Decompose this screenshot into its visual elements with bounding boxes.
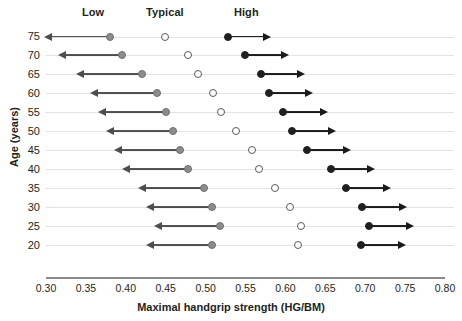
typical-data-point	[194, 70, 202, 78]
x-tick-label: 0.50	[195, 282, 215, 294]
x-tick-label: 0.40	[116, 282, 136, 294]
chart-row	[0, 179, 462, 198]
high-data-point	[288, 127, 296, 135]
high-data-point	[365, 222, 373, 230]
typical-data-point	[271, 184, 279, 192]
high-arrow-head-icon	[281, 51, 289, 59]
low-arrow-shaft	[153, 206, 212, 208]
high-data-point	[224, 33, 232, 41]
high-data-point	[257, 70, 265, 78]
high-arrow-shaft	[228, 36, 265, 38]
typical-data-point	[161, 33, 169, 41]
high-arrow-shaft	[245, 54, 283, 56]
y-tick-label: 40	[28, 163, 40, 175]
y-tick-label: 20	[28, 239, 40, 251]
high-arrow-head-icon	[320, 108, 328, 116]
chart-row	[0, 46, 462, 65]
chart-root: LowTypicalHigh Age (years) 7570656055504…	[0, 0, 462, 321]
y-tick-label: 35	[28, 182, 40, 194]
chart-row	[0, 235, 462, 254]
x-tick-label: 0.75	[395, 282, 415, 294]
x-tick-label: 0.45	[155, 282, 175, 294]
low-data-point	[162, 108, 170, 116]
group-header-high: High	[234, 6, 259, 18]
low-arrow-head-icon	[146, 241, 154, 249]
chart-row	[0, 122, 462, 141]
typical-data-point	[294, 241, 302, 249]
high-data-point	[279, 108, 287, 116]
high-arrow-shaft	[283, 111, 321, 113]
low-arrow-head-icon	[76, 70, 84, 78]
low-arrow-shaft	[83, 73, 142, 75]
low-arrow-head-icon	[154, 222, 162, 230]
y-tick-label: 50	[28, 125, 40, 137]
typical-data-point	[217, 108, 225, 116]
group-header-low: Low	[82, 6, 104, 18]
low-arrow-head-icon	[138, 184, 146, 192]
chart-row	[0, 160, 462, 179]
low-data-point	[216, 222, 224, 230]
high-data-point	[241, 51, 249, 59]
gridline	[46, 188, 454, 189]
x-tick-label: 0.55	[235, 282, 255, 294]
high-arrow-head-icon	[399, 203, 407, 211]
y-tick-label: 70	[28, 49, 40, 61]
group-header-typical: Typical	[146, 6, 184, 18]
typical-data-point	[209, 89, 217, 97]
y-tick-label: 25	[28, 220, 40, 232]
typical-data-point	[232, 127, 240, 135]
high-arrow-shaft	[331, 168, 369, 170]
high-arrow-head-icon	[406, 222, 414, 230]
chart-row	[0, 84, 462, 103]
low-arrow-head-icon	[44, 33, 52, 41]
high-data-point	[358, 203, 366, 211]
high-data-point	[265, 89, 273, 97]
high-data-point	[303, 146, 311, 154]
chart-row	[0, 198, 462, 217]
high-arrow-shaft	[369, 225, 407, 227]
high-arrow-shaft	[292, 130, 330, 132]
typical-data-point	[248, 146, 256, 154]
typical-data-point	[184, 51, 192, 59]
high-arrow-head-icon	[328, 127, 336, 135]
high-arrow-head-icon	[383, 184, 391, 192]
low-data-point	[200, 184, 208, 192]
low-arrow-head-icon	[58, 51, 66, 59]
low-arrow-head-icon	[90, 89, 98, 97]
low-arrow-shaft	[97, 92, 157, 94]
high-arrow-shaft	[361, 244, 399, 246]
x-tick-label: 0.60	[275, 282, 295, 294]
chart-row	[0, 27, 462, 46]
high-arrow-head-icon	[263, 33, 271, 41]
x-tick-label: 0.65	[315, 282, 335, 294]
low-arrow-shaft	[153, 244, 212, 246]
high-arrow-shaft	[362, 206, 400, 208]
high-data-point	[327, 165, 335, 173]
high-arrow-head-icon	[305, 89, 313, 97]
high-data-point	[342, 184, 350, 192]
high-arrow-shaft	[269, 92, 307, 94]
x-axis-title: Maximal handgrip strength (HG/BM)	[0, 301, 462, 313]
typical-data-point	[255, 165, 263, 173]
y-tick-label: 45	[28, 144, 40, 156]
x-tick-label: 0.80	[435, 282, 455, 294]
typical-data-point	[297, 222, 305, 230]
low-data-point	[138, 70, 146, 78]
low-arrow-shaft	[65, 54, 121, 56]
x-axis-line	[46, 277, 445, 279]
low-arrow-head-icon	[122, 165, 130, 173]
low-data-point	[169, 127, 177, 135]
low-arrow-head-icon	[106, 127, 114, 135]
high-arrow-head-icon	[367, 165, 375, 173]
low-data-point	[176, 146, 184, 154]
low-arrow-head-icon	[146, 203, 154, 211]
y-tick-label: 65	[28, 68, 40, 80]
high-arrow-head-icon	[398, 241, 406, 249]
y-tick-label: 30	[28, 201, 40, 213]
low-data-point	[106, 33, 114, 41]
chart-row	[0, 65, 462, 84]
high-arrow-head-icon	[297, 70, 305, 78]
low-arrow-shaft	[145, 187, 204, 189]
chart-row	[0, 217, 462, 236]
low-arrow-shaft	[161, 225, 220, 227]
